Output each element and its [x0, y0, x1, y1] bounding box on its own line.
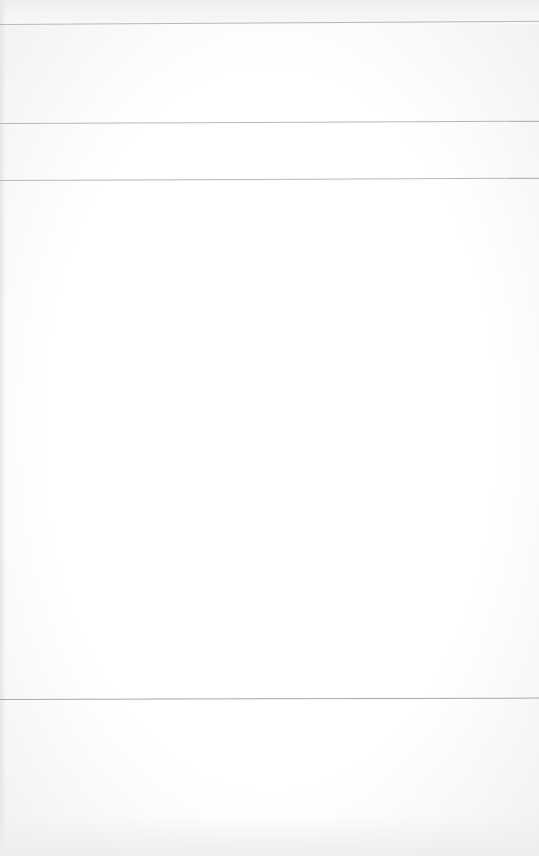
horizontal-rule-4 [0, 698, 539, 700]
horizontal-rule-2 [0, 121, 539, 124]
bottom-edge-shading [0, 816, 539, 856]
horizontal-rule-3 [0, 178, 539, 181]
blank-document-page [0, 0, 539, 856]
left-edge-shading [0, 0, 6, 856]
